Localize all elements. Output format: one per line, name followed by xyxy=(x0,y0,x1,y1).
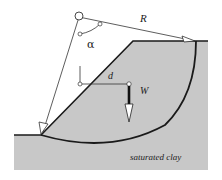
slope-stability-diagram: R α d W saturated clay xyxy=(0,0,222,180)
soil-label: saturated clay xyxy=(130,152,181,162)
alpha-arc-end-right xyxy=(98,22,102,26)
centroid-point-icon xyxy=(127,82,131,86)
alpha-label: α xyxy=(87,38,95,51)
center-of-rotation-icon xyxy=(75,12,83,20)
alpha-arc xyxy=(80,24,100,34)
alpha-arc-end-left xyxy=(78,32,82,36)
radius-line-crest xyxy=(79,17,195,41)
soil-region xyxy=(14,41,208,170)
crest-arrowhead-icon xyxy=(182,36,195,42)
reference-point-icon xyxy=(78,82,82,86)
radius-label: R xyxy=(139,12,147,24)
